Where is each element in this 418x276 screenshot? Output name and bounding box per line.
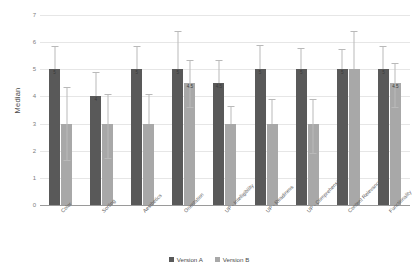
y-axis-tick-label: 4 <box>33 93 36 99</box>
x-axis-tick-label: Sorting <box>81 206 122 252</box>
bar-chart: Median 0123456754554.54.555554.5 ColorSo… <box>0 0 418 276</box>
y-axis-tick-label: 3 <box>33 121 36 127</box>
error-bar-stem <box>342 49 343 69</box>
error-bar-cap-upper <box>104 94 111 95</box>
chart-legend: Version AVersion B <box>0 256 418 263</box>
bar-value-label: 5 <box>341 70 344 75</box>
y-axis-tick-label: 7 <box>33 12 36 18</box>
bar[interactable] <box>225 124 236 205</box>
legend-label: Version B <box>223 256 249 263</box>
error-bar-stem <box>136 46 137 69</box>
legend-swatch-icon <box>215 257 220 262</box>
bar[interactable]: 5 <box>296 69 307 205</box>
legend-label: Version A <box>177 256 203 263</box>
x-axis-tick-label: Aesthetics <box>122 206 163 252</box>
error-bar-stem <box>54 46 55 69</box>
x-axis-tick-label: UP - Comprehension <box>287 206 328 252</box>
bar-column: 4.5 <box>390 83 401 205</box>
bar[interactable]: 4.5 <box>184 83 195 205</box>
bar-value-label: 5 <box>135 70 138 75</box>
bar[interactable] <box>102 124 113 205</box>
legend-item[interactable]: Version A <box>169 256 203 263</box>
bar-value-label: 4.5 <box>187 84 193 89</box>
error-bar-cap-upper <box>298 48 305 49</box>
bar-value-label: 4.5 <box>216 84 222 89</box>
bar[interactable]: 5 <box>131 69 142 205</box>
x-axis-tick-label: UP - Readiness <box>246 206 287 252</box>
bar[interactable] <box>61 124 72 205</box>
bar-value-label: 5 <box>300 70 303 75</box>
error-bar-cap-lower <box>104 158 111 159</box>
error-bar-stem <box>95 72 96 96</box>
bar-group: 4.5 <box>204 15 245 205</box>
bar-group: 5 <box>122 15 163 205</box>
error-bar-cap-upper <box>174 31 181 32</box>
legend-item[interactable]: Version B <box>215 256 249 263</box>
bar-column <box>143 124 154 205</box>
x-axis-tick-label: Content Relevance <box>328 206 369 252</box>
x-axis-tick-label: Orientation <box>163 206 204 252</box>
error-bar-cap-upper <box>380 46 387 47</box>
bar-group: 54.5 <box>163 15 204 205</box>
error-bar-stem <box>354 31 355 69</box>
y-axis-tick-label: 6 <box>33 39 36 45</box>
x-axis-category-labels: ColorSortingAestheticsOrientationUP - In… <box>40 206 410 252</box>
y-axis-tick-label: 5 <box>33 66 36 72</box>
error-bar-cap-upper <box>133 46 140 47</box>
error-bar-cap-lower <box>392 107 399 108</box>
bar[interactable]: 5 <box>49 69 60 205</box>
bar-group: 5 <box>328 15 369 205</box>
error-bar-stem <box>218 60 219 83</box>
error-bar-cap-lower <box>310 153 317 154</box>
bar-column: 4 <box>90 96 101 205</box>
error-bar-cap-lower <box>186 107 193 108</box>
bar-column: 5 <box>172 69 183 205</box>
bar[interactable] <box>308 124 319 205</box>
error-bar-cap-upper <box>257 45 264 46</box>
bar-column: 5 <box>255 69 266 205</box>
error-bar-cap-lower <box>63 160 70 161</box>
bar-value-label: 4.5 <box>392 84 398 89</box>
bar-value-label: 5 <box>177 70 180 75</box>
bar[interactable]: 5 <box>255 69 266 205</box>
x-axis-tick-label: Functionality <box>369 206 410 252</box>
bar[interactable]: 4.5 <box>213 83 224 205</box>
bar-group: 54.5 <box>369 15 410 205</box>
error-bar-stem <box>230 106 231 124</box>
bar-column: 5 <box>296 69 307 205</box>
bar-column: 4.5 <box>184 83 195 205</box>
error-bar-stem <box>272 99 273 123</box>
error-bar-stem <box>148 94 149 124</box>
error-bar-cap-upper <box>186 60 193 61</box>
bar-column: 5 <box>131 69 142 205</box>
bar-column <box>225 124 236 205</box>
bar[interactable] <box>349 69 360 205</box>
bar-group: 5 <box>287 15 328 205</box>
error-bar-cap-upper <box>63 87 70 88</box>
plot-area: 0123456754554.54.555554.5 <box>40 15 410 205</box>
bar-value-label: 5 <box>382 70 385 75</box>
legend-swatch-icon <box>169 257 174 262</box>
bar[interactable]: 4 <box>90 96 101 205</box>
error-bar-cap-upper <box>145 94 152 95</box>
bar-column <box>308 124 319 205</box>
error-bar-stem <box>260 45 261 69</box>
y-axis-tick-label: 0 <box>33 202 36 208</box>
bar-column: 4.5 <box>213 83 224 205</box>
bar-value-label: 5 <box>53 70 56 75</box>
bar-column <box>267 124 278 205</box>
bar-group: 5 <box>40 15 81 205</box>
bar-group: 5 <box>246 15 287 205</box>
error-bar-cap-upper <box>215 60 222 61</box>
bar[interactable] <box>267 124 278 205</box>
bar[interactable]: 4.5 <box>390 83 401 205</box>
bar-groups: 54554.54.555554.5 <box>40 15 410 205</box>
y-axis-tick-label: 1 <box>33 175 36 181</box>
error-bar-stem <box>177 31 178 69</box>
error-bar-cap-upper <box>351 31 358 32</box>
bar[interactable] <box>143 124 154 205</box>
bar-value-label: 5 <box>259 70 262 75</box>
bar-column: 5 <box>49 69 60 205</box>
bar[interactable]: 5 <box>172 69 183 205</box>
bar-column <box>61 124 72 205</box>
